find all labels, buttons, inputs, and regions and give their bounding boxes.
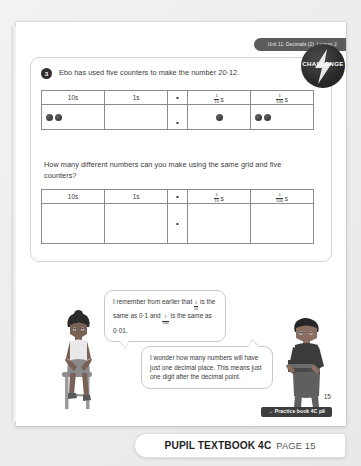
footer-bar: PUPIL TEXTBOOK 4C PAGE 15	[134, 433, 346, 458]
question-number-badge: 3	[41, 68, 52, 79]
cell-tenths-answer[interactable]	[188, 204, 251, 244]
boy-figure	[286, 318, 324, 412]
header-tenths-denominator: 10	[214, 198, 219, 204]
practice-book-link[interactable]: → Practice book 4C p9	[261, 407, 332, 417]
header-tenths-suffix: s	[221, 195, 224, 202]
bubble-tail	[248, 340, 260, 348]
page-number: 15	[324, 393, 331, 400]
character-girl-illustration	[46, 310, 112, 414]
cell-tens-counters[interactable]	[42, 105, 105, 130]
counter	[216, 114, 223, 121]
header-tenths-suffix: s	[221, 96, 224, 103]
cell-tens-answer[interactable]	[42, 204, 105, 244]
activity-box: 3 Ebo has used five counters to make the…	[30, 57, 332, 262]
cell-decimal-point: •	[168, 105, 188, 130]
screenshot-viewport: Unit 11: Decimals (2), Lesson 2 3 Ebo ha…	[0, 0, 361, 466]
header-tens: 10s	[42, 91, 105, 105]
place-value-table-filled: 10s 1s • 1 10 s	[41, 90, 314, 130]
cell-hundredths-counters[interactable]	[251, 105, 314, 130]
prompt-text: How many different numbers can you make …	[44, 160, 282, 181]
counter	[55, 114, 62, 121]
counter	[255, 114, 262, 121]
speech-bubble-boy: I wonder how many numbers will have just…	[141, 346, 273, 389]
counter-group-hundredths	[251, 105, 313, 129]
question-text: Ebo has used five counters to make the n…	[59, 68, 239, 78]
header-hundredths: 1 100 s	[251, 190, 314, 204]
bubble-1-fraction-tenths: 1 10	[194, 302, 198, 311]
bubble-2-text: I wonder how many numbers will have just…	[150, 354, 261, 380]
counter	[264, 114, 271, 121]
header-hundredths-suffix: s	[285, 96, 288, 103]
header-ones: 1s	[105, 190, 168, 204]
table-row[interactable]: •	[42, 105, 314, 130]
question-row: 3 Ebo has used five counters to make the…	[41, 68, 287, 79]
cell-ones-counters[interactable]	[105, 105, 168, 130]
bubble-1-part1: I remember from earlier that	[113, 298, 192, 305]
table-header-row: 10s 1s • 1 10 s	[42, 190, 314, 204]
girl-figure	[65, 310, 92, 401]
counter-group-tens	[42, 105, 104, 129]
header-hundredths-denominator: 100	[276, 198, 283, 204]
header-tenths: 1 10 s	[188, 190, 251, 204]
challenge-badge-label: CHALLENGE	[301, 60, 345, 67]
counter	[46, 114, 53, 121]
header-decimal-point: •	[168, 190, 188, 204]
footer-title: PUPIL TEXTBOOK 4C	[165, 440, 272, 451]
header-decimal-point: •	[168, 91, 188, 105]
table-row[interactable]: •	[42, 204, 314, 244]
header-ones: 1s	[105, 91, 168, 105]
footer-page-label: PAGE 15	[276, 440, 315, 451]
textbook-page: Unit 11: Decimals (2), Lesson 2 3 Ebo ha…	[16, 22, 346, 426]
bubble-tail	[119, 340, 129, 348]
header-hundredths: 1 100 s	[251, 91, 314, 105]
header-hundredths-suffix: s	[285, 195, 288, 202]
header-tenths: 1 10 s	[188, 91, 251, 105]
cell-hundredths-answer[interactable]	[251, 204, 314, 244]
counter-group-tenths	[188, 105, 250, 129]
table-header-row: 10s 1s • 1 10 s	[42, 91, 314, 105]
cell-tenths-counters[interactable]	[188, 105, 251, 130]
bubble-1-fraction-hundredths: 1 100	[162, 316, 168, 325]
place-value-table-empty: 10s 1s • 1 10 s	[41, 189, 314, 244]
speech-bubble-girl: I remember from earlier that 1 10 is the…	[104, 290, 226, 342]
challenge-badge: CHALLENGE	[301, 44, 345, 88]
cell-decimal-point: •	[168, 204, 188, 244]
header-tenths-denominator: 10	[214, 99, 219, 105]
header-tens: 10s	[42, 190, 105, 204]
cell-ones-answer[interactable]	[105, 204, 168, 244]
header-hundredths-denominator: 100	[276, 99, 283, 105]
